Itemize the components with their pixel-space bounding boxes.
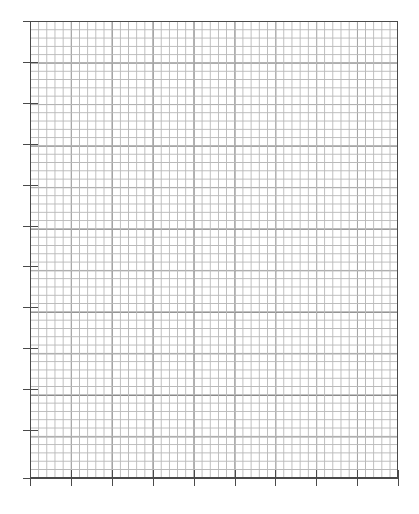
y-axis-tick xyxy=(23,389,38,390)
y-axis-tick xyxy=(23,144,38,145)
y-axis-tick xyxy=(23,348,38,349)
graph-paper-grid xyxy=(30,21,398,478)
x-axis-tick xyxy=(235,470,236,486)
gridlines xyxy=(30,21,398,478)
y-axis-tick xyxy=(23,62,38,63)
y-axis-tick xyxy=(23,226,38,227)
graph-paper-page xyxy=(0,0,419,514)
y-axis-tick xyxy=(23,185,38,186)
x-axis-tick xyxy=(71,470,72,486)
x-axis-tick xyxy=(194,470,195,486)
x-axis-tick xyxy=(153,470,154,486)
y-axis-tick xyxy=(23,266,38,267)
x-axis-tick xyxy=(30,470,31,486)
x-axis-tick xyxy=(357,470,358,486)
x-axis-tick xyxy=(112,470,113,486)
x-axis-tick xyxy=(398,470,399,486)
x-axis-line xyxy=(24,478,398,479)
x-axis-tick xyxy=(275,470,276,486)
y-axis-tick xyxy=(23,430,38,431)
y-axis-tick xyxy=(23,103,38,104)
y-axis-tick xyxy=(23,21,38,22)
x-axis-tick xyxy=(316,470,317,486)
y-axis-tick xyxy=(23,307,38,308)
